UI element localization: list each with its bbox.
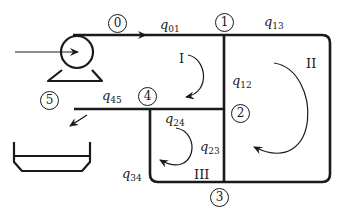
pump-icon — [48, 36, 102, 81]
node-4: 4 — [138, 87, 157, 106]
flow-subscript: 13 — [272, 21, 283, 31]
flow-subscript: 23 — [208, 146, 219, 156]
node-1-label: 1 — [221, 15, 229, 29]
tank-icon — [14, 142, 90, 171]
loop-I-label: I — [179, 52, 184, 65]
node-5-label: 5 — [46, 93, 54, 107]
flow-subscript: 24 — [173, 118, 184, 128]
flow-q34: q34 — [122, 167, 142, 183]
flow-q12: q12 — [232, 74, 252, 90]
node-5: 5 — [40, 91, 59, 110]
loop-I-arrow-icon — [186, 55, 204, 97]
node-3: 3 — [210, 188, 229, 207]
flow-subscript: 34 — [130, 173, 141, 183]
loop-III-label: III — [194, 168, 209, 181]
node-3-label: 3 — [216, 190, 224, 204]
node-2: 2 — [231, 104, 250, 123]
loop-III-arrow-icon — [160, 128, 192, 165]
flow-q24: q24 — [165, 112, 185, 128]
flow-subscript: 12 — [240, 80, 251, 90]
node-4-label: 4 — [144, 89, 152, 103]
flow-q45: q45 — [102, 89, 122, 105]
node-0: 0 — [108, 14, 127, 33]
loop-II-label: II — [306, 57, 316, 70]
flow-q13: q13 — [264, 15, 284, 31]
loop-II-arrow-icon — [254, 63, 308, 153]
flow-subscript: 45 — [110, 95, 121, 105]
flow-q01: q01 — [160, 18, 180, 34]
node-2-label: 2 — [237, 106, 245, 120]
node-1: 1 — [215, 13, 234, 32]
outlet-arrow-icon — [70, 115, 87, 126]
flow-subscript: 01 — [168, 24, 179, 34]
node-0-label: 0 — [114, 16, 122, 30]
pipe-network — [73, 35, 330, 182]
flow-q23: q23 — [200, 140, 220, 156]
